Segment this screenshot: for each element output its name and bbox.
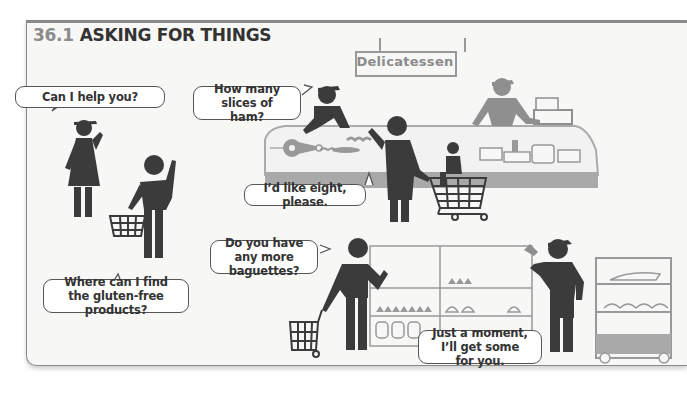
speech-bubble-assistant-offer: Can I help you? [15,86,165,108]
speech-bubble-customer-answer: I’d like eight, please. [244,184,366,206]
cheese-worker-figure [472,78,572,126]
basket-icon [110,216,145,236]
delicatessen-sign-label: Delicatessen [355,54,455,69]
shop-assistant-figure [65,120,103,217]
trolley-basket-icon [290,310,322,357]
male-shopper-figure [322,238,388,350]
speech-bubble-baguette-question: Do you have any more baguettes? [210,240,318,274]
speech-bubble-deli-question: How many slices of ham? [193,86,301,120]
bread-trolley [596,258,671,363]
speech-bubble-gluten-question: Where can I find the gluten-free product… [43,279,189,313]
customer-with-basket-figure [128,155,176,258]
speech-bubble-baker-answer: Just a moment, I’ll get some for you. [418,330,542,364]
